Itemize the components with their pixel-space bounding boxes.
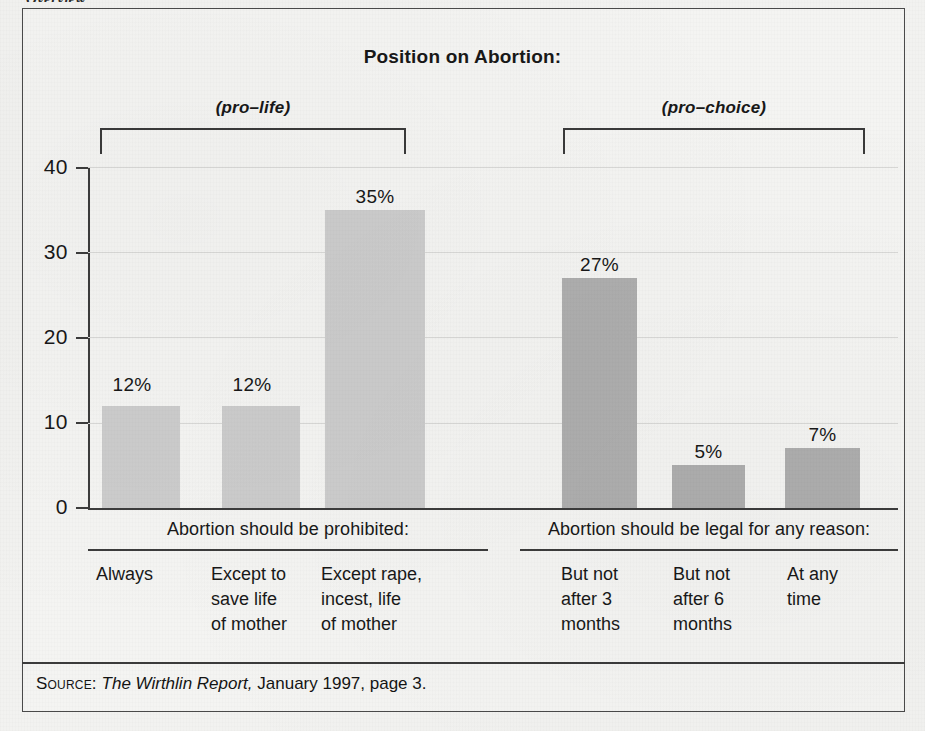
y-tick-mark-30 — [76, 252, 88, 254]
running-head-text: Overview — [26, 0, 86, 2]
source-label: Source: — [36, 674, 97, 693]
group-label-pro-life: (pro–life) — [100, 98, 406, 118]
bar-not-after-6-months — [672, 465, 745, 508]
gridline-40 — [88, 167, 898, 168]
source-rest: January 1997, page 3. — [253, 674, 427, 693]
bar-value-at-any-time: 7% — [785, 424, 860, 446]
bar-value-except-rape-incest: 35% — [325, 186, 425, 208]
y-tick-mark-10 — [76, 422, 88, 424]
y-tick-label-20: 20 — [28, 325, 68, 349]
y-tick-mark-0 — [76, 507, 88, 509]
y-tick-mark-20 — [76, 337, 88, 339]
y-tick-label-40: 40 — [28, 155, 68, 179]
y-tick-label-0: 0 — [28, 495, 68, 519]
gridline-30 — [88, 252, 898, 253]
category-label-except-rape-incest: Except rape, incest, life of mother — [321, 562, 446, 637]
statement-rule-left — [88, 549, 488, 551]
group-bracket-pro-choice — [563, 128, 865, 154]
gridline-20 — [88, 337, 898, 338]
source-publication: The Wirthlin Report, — [102, 674, 253, 693]
chart-page: Overview Position on Abortion: (pro–life… — [0, 0, 925, 731]
bar-except-save-life — [222, 406, 300, 508]
bar-except-rape-incest — [325, 210, 425, 508]
statement-legal: Abortion should be legal for any reason: — [520, 519, 898, 540]
x-axis-line — [88, 508, 898, 510]
source-line: Source: The Wirthlin Report, January 199… — [36, 674, 426, 694]
bar-value-not-after-6-months: 5% — [672, 441, 745, 463]
y-tick-label-10: 10 — [28, 410, 68, 434]
source-divider — [22, 662, 905, 664]
y-tick-mark-40 — [76, 167, 88, 169]
statement-prohibited: Abortion should be prohibited: — [88, 519, 488, 540]
category-label-not-after-3-months: But not after 3 months — [561, 562, 656, 637]
bar-value-always: 12% — [92, 374, 172, 396]
category-label-not-after-6-months: But not after 6 months — [673, 562, 768, 637]
statement-rule-right — [520, 549, 898, 551]
chart-title: Position on Abortion: — [0, 46, 925, 68]
group-bracket-pro-life — [100, 128, 406, 154]
category-label-at-any-time: At any time — [787, 562, 872, 612]
bar-at-any-time — [785, 448, 860, 508]
bar-value-except-save-life: 12% — [212, 374, 292, 396]
bar-value-not-after-3-months: 27% — [562, 254, 637, 276]
plot-area — [88, 167, 898, 508]
bar-always — [102, 406, 180, 508]
gridline-10 — [88, 423, 898, 424]
category-label-always: Always — [96, 562, 196, 587]
bar-not-after-3-months — [562, 278, 637, 508]
y-tick-label-30: 30 — [28, 240, 68, 264]
category-label-except-save-life: Except to save life of mother — [211, 562, 321, 637]
group-label-pro-choice: (pro–choice) — [563, 98, 865, 118]
